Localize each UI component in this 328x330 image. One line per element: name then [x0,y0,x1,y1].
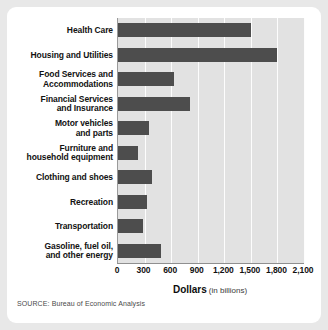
category-label: Housing and Utilities [7,51,113,61]
bar-row [118,23,304,37]
bar-row [118,195,304,209]
bar-row [118,121,304,135]
category-label-line: Transportation [7,222,113,232]
bar [118,195,147,209]
category-label: Motor vehiclesand parts [7,119,113,138]
bar-series [118,18,304,263]
bar [118,121,149,135]
plot-area [117,18,304,263]
category-label: Gasoline, fuel oil,and other energy [7,242,113,261]
category-label-line: Health Care [7,26,113,36]
x-axis-title-main: Dollars [173,284,207,295]
x-tick-label: 1,800 [266,265,287,275]
category-label-line: and other energy [7,251,113,261]
x-tick-label: 900 [190,265,204,275]
category-label: Recreation [7,198,113,208]
bar [118,244,161,258]
category-label: Furniture andhousehold equipment [7,144,113,163]
bar-row [118,170,304,184]
bar [118,219,143,233]
category-label: Health Care [7,26,113,36]
bar [118,72,174,86]
x-tick-label: 2,100 [293,265,314,275]
category-label-line: and Insurance [7,104,113,114]
bar-row [118,48,304,62]
bar [118,23,251,37]
bar-row [118,146,304,160]
category-label-line: household equipment [7,153,113,163]
category-label-line: Clothing and shoes [7,173,113,183]
category-label-line: Recreation [7,198,113,208]
source-note: SOURCE: Bureau of Economic Analysis [17,300,145,307]
bar-row [118,219,304,233]
category-label-line: and parts [7,129,113,139]
bar [118,146,138,160]
figure-frame: Health CareHousing and UtilitiesFood Ser… [7,7,321,323]
bar-row [118,244,304,258]
category-label-line: Accommodations [7,80,113,90]
category-label: Food Services andAccommodations [7,70,113,89]
category-label: Financial Servicesand Insurance [7,95,113,114]
x-axis-tick-labels: 03006009001,2001,5001,8002,100 [7,265,321,277]
x-axis-title-unit: (in billions) [209,286,247,295]
category-label: Transportation [7,222,113,232]
category-axis-labels: Health CareHousing and UtilitiesFood Ser… [7,18,113,263]
bar [118,97,190,111]
x-tick-label: 1,200 [213,265,234,275]
category-label-line: Housing and Utilities [7,51,113,61]
x-tick-label: 600 [163,265,177,275]
x-axis-title: Dollars(in billions) [117,279,303,297]
x-axis-line [117,263,304,264]
bar [118,48,277,62]
category-label: Clothing and shoes [7,173,113,183]
x-tick-label: 300 [137,265,151,275]
x-tick-label: 0 [115,265,120,275]
gridline [304,18,305,263]
bar-row [118,97,304,111]
x-tick-label: 1,500 [239,265,260,275]
bar-row [118,72,304,86]
bar [118,170,152,184]
bar-chart: Health CareHousing and UtilitiesFood Ser… [7,7,321,323]
